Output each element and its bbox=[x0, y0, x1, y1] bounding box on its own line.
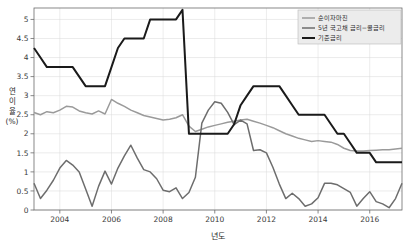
y-tick-label-9: 4.5 bbox=[17, 34, 29, 43]
y-tick-label-0: 0 bbox=[24, 206, 29, 215]
y-tick-label-6: 3 bbox=[24, 91, 29, 100]
x-tick-label-1: 2006 bbox=[102, 215, 121, 224]
legend-label-1: 5년 국고채 금리−콜금리 bbox=[318, 24, 385, 32]
y-tick-label-3: 1.5 bbox=[17, 149, 29, 158]
legend-label-0: 순이자마진 bbox=[318, 14, 348, 22]
y-tick-label-10: 5 bbox=[24, 15, 29, 24]
x-axis-title: 년도 bbox=[211, 231, 225, 241]
y-axis-ticks: 00.511.522.533.544.55 bbox=[17, 15, 34, 215]
x-tick-label-0: 2004 bbox=[50, 215, 69, 224]
x-tick-label-5: 2014 bbox=[309, 215, 328, 224]
legend-label-2: 기준금리 bbox=[318, 34, 342, 42]
series-line-1 bbox=[34, 102, 402, 208]
y-axis-title-char-1: 이 bbox=[9, 96, 16, 106]
x-tick-label-4: 2012 bbox=[257, 215, 276, 224]
y-axis-title-char-0: 연 bbox=[9, 87, 16, 96]
y-tick-label-7: 3.5 bbox=[17, 72, 29, 81]
y-axis-title: 연이율(%) bbox=[6, 87, 19, 126]
x-tick-label-6: 2016 bbox=[360, 215, 379, 224]
x-tick-label-2: 2008 bbox=[154, 215, 173, 224]
chart-canvas: 00.511.522.533.544.55 200420062008201020… bbox=[0, 0, 414, 243]
y-tick-label-2: 1 bbox=[24, 168, 29, 177]
y-tick-label-8: 4 bbox=[24, 53, 29, 62]
x-tick-label-3: 2010 bbox=[205, 215, 224, 224]
y-tick-label-4: 2 bbox=[24, 129, 29, 138]
y-axis-title-char-3: (%) bbox=[6, 117, 19, 126]
x-axis-title: 년도 bbox=[211, 231, 225, 241]
x-axis-ticks: 2004200620082010201220142016 bbox=[50, 210, 379, 224]
y-axis-title-char-2: 율 bbox=[9, 107, 16, 116]
interest-rate-line-chart: 00.511.522.533.544.55 200420062008201020… bbox=[0, 0, 414, 243]
y-tick-label-1: 0.5 bbox=[17, 187, 29, 196]
series-line-0 bbox=[34, 99, 402, 150]
chart-legend: 순이자마진5년 국고채 금리−콜금리기준금리 bbox=[298, 10, 401, 44]
